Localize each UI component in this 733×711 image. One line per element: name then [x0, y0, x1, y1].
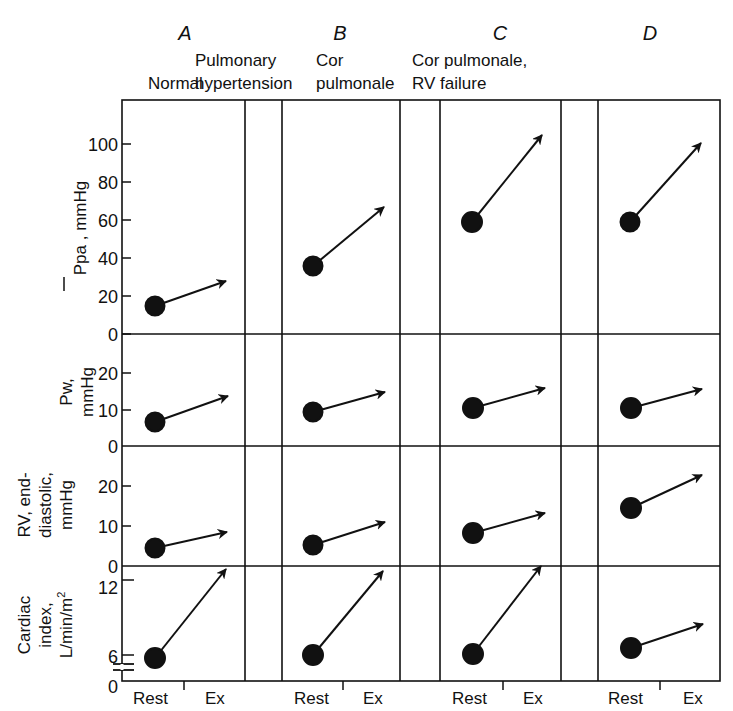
arrow-pw-a — [146, 396, 229, 432]
hemodynamics-figure: A B C D Normal Pulmonary hypertension Co… — [0, 0, 733, 711]
arrow-rv-d — [621, 475, 702, 518]
rv-tick-10: 10 — [98, 517, 118, 537]
arrow-ci-c — [463, 566, 541, 664]
ppa-tick-40: 40 — [98, 249, 118, 269]
arrow-ci-b — [303, 571, 383, 665]
panel-grid — [122, 100, 720, 681]
arrow-rv-a — [146, 532, 228, 558]
column-title-pulm-htn-line1: Pulmonary — [195, 51, 277, 70]
pw-tick-10: 10 — [98, 401, 118, 421]
pw-tick-0: 0 — [108, 437, 118, 457]
ci-axis-label-line2: index, — [36, 602, 55, 647]
ppa-tick-80: 80 — [98, 173, 118, 193]
pw-tick-20: 20 — [98, 364, 118, 384]
row-pw-axis: Pw, mmHg 20 10 0 — [57, 364, 131, 457]
arrow-ci-d — [621, 624, 703, 658]
ppa-tick-0: 0 — [108, 325, 118, 345]
row-rv-axis: RV, end- diastolic, mmHg 20 10 0 — [15, 472, 131, 577]
x-label-rest-a: Rest — [133, 689, 168, 708]
arrow-pw-b — [304, 392, 386, 422]
ppa-axis-label: Ppa , mmHg — [71, 181, 90, 275]
column-letter-c: C — [493, 22, 508, 44]
column-letter-a: A — [177, 22, 191, 44]
x-label-ex-c: Ex — [523, 689, 543, 708]
rv-tick-0: 0 — [108, 557, 118, 577]
data-arrows — [145, 135, 703, 668]
ci-tick-0: 0 — [108, 677, 118, 697]
arrow-pw-d — [621, 389, 702, 418]
arrow-rv-b — [304, 522, 386, 555]
ppa-tick-100: 100 — [88, 135, 118, 155]
rv-axis-label-line1: RV, end- — [15, 472, 34, 537]
x-label-rest-c: Rest — [452, 689, 487, 708]
arrow-pw-c — [463, 388, 545, 418]
column-title-rv-failure-line1: Cor pulmonale, — [412, 51, 527, 70]
arrow-ppa-a — [146, 281, 227, 316]
rv-tick-20: 20 — [98, 477, 118, 497]
ci-tick-6: 6 — [108, 647, 118, 667]
rv-axis-label-line2: diastolic, — [36, 472, 55, 538]
pw-axis-label-line1: Pw, — [57, 378, 76, 405]
column-letter-d: D — [643, 22, 657, 44]
x-axis-labels: Rest Ex Rest Ex Rest Ex Rest Ex — [133, 681, 703, 708]
ppa-tick-20: 20 — [98, 287, 118, 307]
ppa-tick-60: 60 — [98, 211, 118, 231]
column-title-cor-line1: Cor — [316, 51, 344, 70]
arrow-rv-c — [463, 513, 545, 543]
rv-axis-label-line3: mmHg — [57, 480, 76, 530]
pw-axis-label-line2: mmHg — [78, 367, 97, 417]
ci-tick-12: 12 — [98, 578, 118, 598]
ci-axis-label-line3: L/min/m2 — [55, 592, 76, 659]
arrow-ppa-d — [621, 143, 702, 232]
arrow-ppa-b — [304, 207, 385, 276]
column-headers: A B C D Normal Pulmonary hypertension Co… — [148, 22, 657, 93]
row-ci-axis: Cardiac index, L/min/m2 12 6 0 — [15, 578, 134, 697]
x-label-ex-b: Ex — [363, 689, 383, 708]
arrow-ppa-c — [462, 135, 542, 232]
ci-axis-label-line1: Cardiac — [15, 595, 34, 654]
x-label-ex-a: Ex — [205, 689, 225, 708]
row-ppa-axis: Ppa , mmHg 100 80 60 40 20 0 — [64, 135, 131, 345]
column-title-cor-line2: pulmonale — [316, 74, 394, 93]
x-label-rest-b: Rest — [294, 689, 329, 708]
column-title-rv-failure-line2: RV failure — [412, 74, 486, 93]
column-letter-b: B — [333, 22, 346, 44]
x-label-rest-d: Rest — [608, 689, 643, 708]
x-label-ex-d: Ex — [683, 689, 703, 708]
arrow-ci-a — [145, 569, 226, 668]
column-title-pulm-htn-line2: hypertension — [195, 74, 292, 93]
